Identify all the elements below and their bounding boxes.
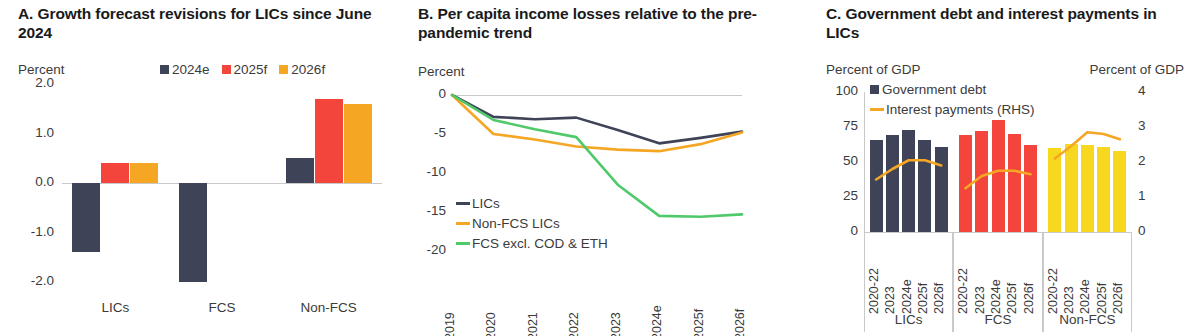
panel-a-title: A. Growth forecast revisions for LICs si… [18, 4, 388, 42]
panel-a-growth-forecast-revisions: A. Growth forecast revisions for LICs si… [0, 0, 400, 336]
legend-swatch-2026f [279, 65, 288, 74]
panel-c-interest-line-Non-FCS [1055, 132, 1120, 158]
legend-swatch-2025f [222, 65, 231, 74]
panel-a-y-tick-1.0: 1.0 [8, 125, 54, 140]
panel-b-x-tick-2022: 2022 [567, 312, 581, 336]
panel-c-right-tick-0: 0 [1138, 223, 1160, 238]
panel-b-y-tick--5: -5 [406, 125, 446, 140]
panel-a-bar-Non-FCS-2026f [344, 104, 372, 183]
panel-a-legend: 2024e2025f2026f [160, 62, 337, 77]
legend-label-2026f: 2026f [291, 62, 325, 77]
panel-a-legend-item-2024e: 2024e [160, 62, 210, 77]
panel-a-category-Non-FCS: Non-FCS [275, 300, 382, 315]
panel-a-y-tick--2.0: -2.0 [8, 273, 54, 288]
panel-c-government-debt-interest: C. Government debt and interest payments… [812, 0, 1186, 336]
panel-a-legend-item-2026f: 2026f [279, 62, 325, 77]
panel-b-x-tick-2019: 2019 [443, 312, 457, 336]
panel-b-x-tick-2024e: 2024e [650, 305, 664, 336]
panel-c-group-box-Non-FCS [1043, 232, 1132, 332]
panel-a-y-tick-0.0: 0.0 [8, 174, 54, 189]
panel-c-right-tick-3: 3 [1138, 118, 1160, 133]
panel-a-bar-Non-FCS-2025f [315, 99, 343, 183]
panel-b-x-tick-2023: 2023 [609, 312, 623, 336]
panel-a-y-tick-2.0: 2.0 [8, 75, 54, 90]
panel-b-x-tick-2020: 2020 [484, 312, 498, 336]
panel-c-interest-line-FCS [965, 171, 1030, 189]
panel-c-right-tick-1: 1 [1138, 188, 1160, 203]
panel-b-legend-item-FCS excl. COD & ETH: FCS excl. COD & ETH [456, 236, 608, 251]
panel-a-bar-Non-FCS-2024e [286, 158, 314, 183]
panel-c-left-tick-25: 25 [814, 188, 858, 203]
panel-b-legend-item-LICs: LICs [456, 196, 608, 211]
panel-c-right-tick-2: 2 [1138, 153, 1160, 168]
panel-c-group-box-FCS [953, 232, 1042, 332]
panel-c-left-tick-0: 0 [814, 223, 858, 238]
panel-b-legend: LICsNon-FCS LICsFCS excl. COD & ETH [456, 196, 608, 256]
panel-b-title: B. Per capita income losses relative to … [418, 4, 800, 42]
panel-c-interest-lines [864, 92, 1132, 232]
legend-line-FCS excl. COD & ETH [456, 242, 470, 245]
panel-c-left-tick-75: 75 [814, 118, 858, 133]
panel-a-legend-item-2025f: 2025f [222, 62, 268, 77]
panel-b-legend-item-Non-FCS LICs: Non-FCS LICs [456, 216, 608, 231]
panel-b-y-tick--20: -20 [406, 242, 446, 257]
panel-c-right-axis-unit: Percent of GDP [1089, 62, 1184, 77]
panel-c-plot-area [864, 92, 1132, 232]
panel-b-x-tick-2026f: 2026f [733, 309, 747, 336]
panel-a-bar-FCS-2024e [179, 183, 207, 282]
panel-a-bar-LICs-2026f [130, 163, 158, 183]
legend-line-Non-FCS LICs [456, 222, 470, 225]
panel-c-group-box-LICs [864, 232, 953, 332]
legend-label-LICs: LICs [472, 196, 500, 211]
legend-label-2025f: 2025f [234, 62, 268, 77]
panel-a-y-tick--1.0: -1.0 [8, 224, 54, 239]
legend-label-Non-FCS LICs: Non-FCS LICs [472, 216, 560, 231]
panel-c-left-tick-50: 50 [814, 153, 858, 168]
panel-b-y-tick--10: -10 [406, 164, 446, 179]
panel-c-left-tick-100: 100 [814, 83, 858, 98]
panel-c-left-axis-unit: Percent of GDP [826, 62, 921, 77]
panel-b-y-axis-unit: Percent [418, 64, 465, 79]
panel-a-category-FCS: FCS [169, 300, 276, 315]
legend-label-2024e: 2024e [172, 62, 210, 77]
panel-a-zero-line [62, 183, 382, 184]
legend-label-FCS excl. COD & ETH: FCS excl. COD & ETH [472, 236, 608, 251]
panel-c-interest-line-LICs [876, 160, 941, 179]
panel-c-right-tick-4: 4 [1138, 83, 1160, 98]
panel-a-plot-area [62, 84, 382, 282]
figure-three-panel-lics: A. Growth forecast revisions for LICs si… [0, 0, 1186, 336]
panel-b-x-tick-2025f: 2025f [692, 309, 706, 336]
panel-a-category-LICs: LICs [62, 300, 169, 315]
panel-a-bar-LICs-2024e [72, 183, 100, 252]
panel-b-y-tick-0: 0 [406, 86, 446, 101]
panel-c-title: C. Government debt and interest payments… [826, 4, 1186, 42]
panel-b-x-tick-2021: 2021 [526, 312, 540, 336]
panel-a-bar-LICs-2025f [101, 163, 129, 183]
panel-b-per-capita-income-losses: B. Per capita income losses relative to … [404, 0, 800, 336]
legend-line-LICs [456, 202, 470, 205]
legend-swatch-2024e [160, 65, 169, 74]
panel-b-y-tick--15: -15 [406, 203, 446, 218]
